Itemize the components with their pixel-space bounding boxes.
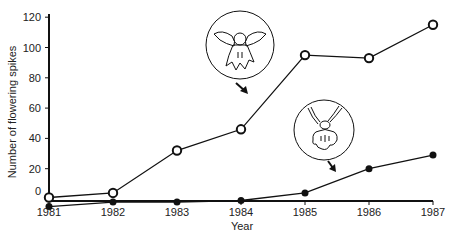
- y-axis-title: Number of flowering spikes: [6, 45, 18, 178]
- data-point: [174, 199, 181, 206]
- data-point: [109, 189, 117, 197]
- data-point: [366, 165, 373, 172]
- x-tick-label: 1987: [421, 206, 445, 218]
- data-point: [430, 152, 437, 159]
- data-point: [237, 125, 245, 133]
- data-point: [429, 21, 437, 29]
- y-tick-label: 0: [35, 185, 41, 197]
- data-point: [302, 189, 309, 196]
- line-chart: 020406080100120 198119821983198419851986…: [0, 0, 451, 239]
- flower-illustration-a: [206, 11, 274, 94]
- data-point: [45, 193, 53, 201]
- y-tick-label: 120: [23, 11, 41, 23]
- x-tick-label: 1983: [165, 206, 189, 218]
- y-tick-label: 80: [29, 72, 41, 84]
- x-tick-label: 1985: [293, 206, 317, 218]
- data-point: [46, 203, 53, 210]
- x-tick-label: 1982: [101, 206, 125, 218]
- data-point: [110, 199, 117, 206]
- y-tick-label: 40: [29, 132, 41, 144]
- y-tick-label: 60: [29, 102, 41, 114]
- y-tick-label: 20: [29, 163, 41, 175]
- x-tick-label: 1986: [357, 206, 381, 218]
- y-axis-ticks: 020406080100120: [23, 11, 49, 197]
- x-tick-label: 1984: [229, 206, 253, 218]
- y-tick-label: 100: [23, 42, 41, 54]
- x-axis-title: Year: [231, 220, 254, 232]
- data-point: [173, 146, 181, 154]
- data-point: [238, 197, 245, 204]
- data-point: [365, 54, 373, 62]
- flower-illustration-b: [294, 100, 354, 172]
- data-point: [301, 51, 309, 59]
